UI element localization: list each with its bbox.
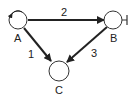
graph-diagram: A B C 2 1 3 <box>0 0 137 101</box>
edge-a-to-c-label: 1 <box>28 48 34 60</box>
node-a-label: A <box>14 32 22 44</box>
edge-b-to-c-label: 3 <box>91 47 97 59</box>
edge-b-to-c <box>67 27 107 62</box>
node-b-label: B <box>110 32 117 44</box>
edge-a-to-b-label: 2 <box>61 6 67 18</box>
node-c <box>49 61 69 81</box>
node-b <box>104 11 122 29</box>
node-c-label: C <box>55 84 63 96</box>
